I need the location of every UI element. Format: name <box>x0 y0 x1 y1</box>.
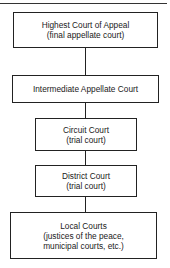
node-intermediate-court: Intermediate Appellate Court <box>12 75 159 103</box>
top-rule <box>0 3 167 4</box>
node-subtitle: (final appellate court) <box>47 30 124 40</box>
node-title: Circuit Court <box>63 125 109 135</box>
node-title: District Court <box>62 171 110 181</box>
node-subtitle: (trial court) <box>66 135 106 145</box>
node-subtitle-2: municipal courts, etc.) <box>43 241 124 251</box>
node-highest-court: Highest Court of Appeal (final appellate… <box>13 12 158 48</box>
node-title: Intermediate Appellate Court <box>33 84 138 94</box>
node-circuit-court: Circuit Court (trial court) <box>35 118 137 151</box>
node-subtitle: (trial court) <box>66 181 106 191</box>
node-title: Highest Court of Appeal <box>42 20 130 30</box>
connector-3 <box>85 151 86 165</box>
connector-2 <box>85 103 86 118</box>
node-district-court: District Court (trial court) <box>35 165 137 197</box>
node-subtitle: (justices of the peace, <box>43 231 124 241</box>
connector-4 <box>85 197 86 212</box>
connector-1 <box>85 48 86 75</box>
node-local-courts: Local Courts (justices of the peace, mun… <box>10 212 157 259</box>
node-title: Local Courts <box>60 221 107 231</box>
